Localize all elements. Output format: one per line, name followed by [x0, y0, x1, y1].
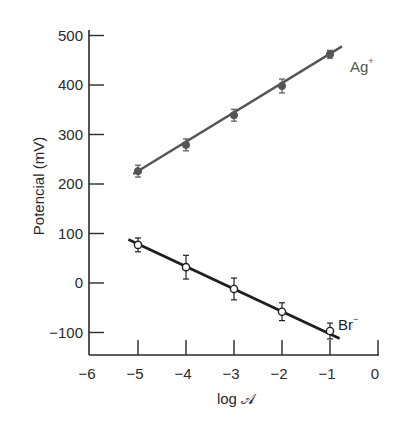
fit-line	[133, 46, 342, 174]
x-tick-label: −2	[270, 365, 287, 382]
y-tick-label: 400	[58, 76, 83, 93]
y-tick-label: 300	[58, 126, 83, 143]
x-tick-label: −1	[318, 365, 335, 382]
y-tick-label: 500	[58, 27, 83, 44]
data-point	[278, 82, 285, 89]
data-point	[230, 285, 237, 292]
y-tick-label: 200	[58, 175, 83, 192]
data-point	[326, 327, 333, 334]
data-point	[134, 241, 141, 248]
data-point	[182, 264, 189, 271]
y-axis: 5004003002001000−100	[49, 27, 104, 356]
x-axis: −6−5−4−3−2−10	[78, 340, 379, 382]
x-tick-label: −3	[222, 365, 239, 382]
x-tick-label: −5	[126, 365, 143, 382]
x-tick-label: 0	[371, 365, 379, 382]
data-point	[326, 51, 333, 58]
data-point	[230, 112, 237, 119]
y-tick-label: 0	[75, 274, 83, 291]
x-axis-title: log 𝒜	[217, 390, 257, 407]
data-point	[278, 308, 285, 315]
x-tick-label: −4	[174, 365, 191, 382]
series-label: Ag+	[350, 56, 374, 75]
chart: 5004003002001000−100 −6−5−4−3−2−10 Poten…	[0, 0, 406, 433]
series-br: Br−	[128, 238, 358, 339]
series-label: Br−	[338, 314, 358, 333]
y-axis-title: Potencial (mV)	[30, 137, 47, 235]
y-tick-label: 100	[58, 225, 83, 242]
plot-area: Ag+Br−	[128, 46, 373, 339]
series-ag: Ag+	[133, 46, 373, 177]
data-point	[134, 168, 141, 175]
data-point	[182, 141, 189, 148]
x-tick-label: −6	[78, 365, 95, 382]
y-tick-label: −100	[49, 324, 83, 341]
